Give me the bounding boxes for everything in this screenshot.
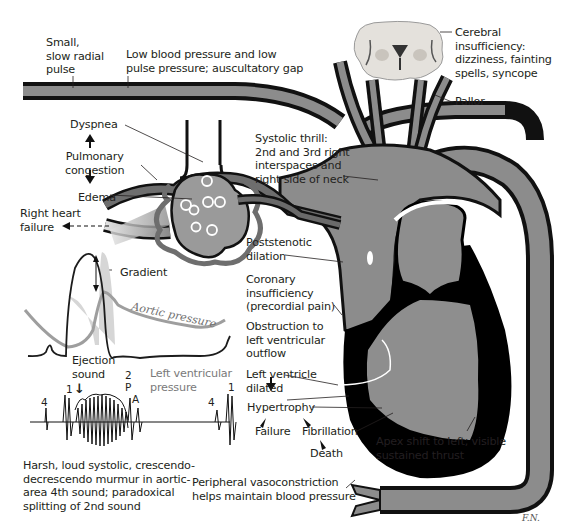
label-radial-pulse: Small, slow radial pulse [46,36,104,77]
label-pulmonary-congestion: Pulmonary congestion [65,150,124,177]
label-coronary-insufficiency: Coronary insufficiency (precordial pain) [246,273,335,314]
brain-cross-section [354,21,443,80]
label-systolic-thrill: Systolic thrill: 2nd and 3rd right inter… [255,132,350,186]
label-apex-shift: Apex shift to left; visible sustained th… [376,435,506,462]
pcg-marker-s4-second: 4 [208,396,215,408]
pcg-marker-s2: 2 [125,369,132,381]
label-fibrillation: Fibrillation [302,425,358,439]
label-obstruction: Obstruction to left ventricular outflow [246,320,325,361]
label-dyspnea: Dyspnea [70,118,118,132]
label-failure: Failure [255,425,290,439]
pcg-marker-p: P [125,381,131,393]
label-murmur-description: Harsh, loud systolic, crescendo- decresc… [23,459,195,513]
pcg-marker-s4: 4 [41,396,48,408]
label-death: Death [310,447,343,461]
label-pallor: Pallor [455,95,485,109]
label-lv-pressure: Left ventricular pressure [150,367,232,394]
pcg-marker-s1-second: 1 [228,381,235,393]
pcg-marker-a: A [132,393,139,405]
arrow-up-icon [85,134,95,148]
label-right-heart-failure: Right heart failure [20,207,81,234]
ejection-arrow-icon: ↓ [74,381,85,396]
label-peripheral-vasoconstriction: Peripheral vasoconstriction helps mainta… [192,476,356,503]
label-cerebral-insufficiency: Cerebral insufficiency: dizziness, faint… [455,26,552,80]
label-edema: Edema [78,191,116,205]
label-poststenotic-dilation: Poststenotic dilation [246,236,312,263]
label-ejection-sound: Ejection sound [72,354,115,381]
label-gradient: Gradient [120,266,167,280]
label-lv-dilated: Left ventricle dilated [246,368,317,395]
pcg-marker-s1: 1 [66,383,73,395]
label-hypertrophy: Hypertrophy [247,401,315,415]
descending-aorta [365,110,535,140]
aortic-stenosis-diagram: Small, slow radial pulse Low blood press… [0,0,565,530]
artist-signature: F.N. [522,513,540,523]
label-low-blood-pressure: Low blood pressure and low pulse pressur… [126,48,303,75]
